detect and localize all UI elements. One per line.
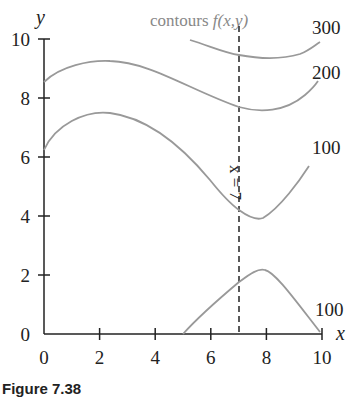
contour-100-lower	[183, 270, 320, 334]
svg-text:10: 10	[11, 29, 30, 50]
x-axis-label: x	[335, 322, 345, 344]
svg-text:4: 4	[21, 206, 31, 227]
contour-labels: 300 200 100 100	[312, 17, 344, 320]
svg-text:4: 4	[150, 347, 160, 368]
svg-text:6: 6	[206, 347, 216, 368]
svg-text:8: 8	[262, 347, 272, 368]
contour-100-upper	[44, 113, 309, 219]
figure-caption: Figure 7.38	[2, 380, 81, 397]
svg-text:6: 6	[21, 147, 31, 168]
svg-text:2: 2	[21, 265, 31, 286]
svg-text:8: 8	[21, 88, 31, 109]
svg-text:0: 0	[39, 347, 49, 368]
svg-text:100: 100	[315, 299, 344, 320]
svg-text:200: 200	[312, 62, 341, 83]
y-axis-label: y	[34, 6, 45, 29]
y-tick-labels: 10 8 6 4 2 0	[11, 29, 31, 345]
contour-curves	[44, 40, 320, 334]
contour-300	[190, 40, 320, 58]
chart-title: contours f(x,y)	[150, 11, 249, 30]
svg-text:300: 300	[312, 17, 341, 38]
svg-text:0: 0	[21, 324, 31, 345]
svg-text:10: 10	[313, 347, 332, 368]
x-equals-7-label: x = 7	[226, 165, 245, 201]
svg-text:2: 2	[95, 347, 105, 368]
x-tick-labels: 0 2 4 6 8 10	[39, 347, 331, 368]
contour-200	[44, 61, 318, 110]
svg-text:100: 100	[312, 137, 341, 158]
